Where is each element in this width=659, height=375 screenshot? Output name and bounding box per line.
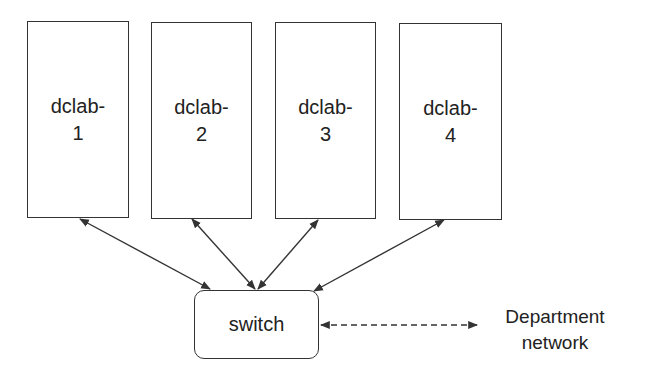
- link-dclab-1-switch: [80, 219, 210, 289]
- host-label-line2: 3: [298, 121, 352, 148]
- host-label-line2: 1: [51, 120, 105, 147]
- host-label-line1: dclab-: [298, 94, 352, 121]
- host-dclab-3: dclab-3: [275, 22, 376, 219]
- link-dclab-2-switch: [192, 219, 255, 289]
- host-label-line2: 2: [174, 121, 228, 148]
- host-label-line2: 4: [423, 122, 477, 149]
- host-label-line1: dclab-: [51, 93, 105, 120]
- department-label-line1: Department: [495, 304, 615, 330]
- link-dclab-4-switch: [314, 220, 444, 291]
- host-dclab-1: dclab-1: [27, 21, 129, 218]
- department-network-label: Department network: [495, 304, 615, 356]
- switch-label: switch: [229, 311, 285, 338]
- host-label-line1: dclab-: [423, 95, 477, 122]
- link-dclab-3-switch: [258, 220, 318, 289]
- host-dclab-2: dclab-2: [151, 22, 252, 219]
- host-label-line1: dclab-: [174, 94, 228, 121]
- host-dclab-4: dclab-4: [399, 23, 502, 220]
- switch-node: switch: [194, 290, 319, 359]
- department-label-line2: network: [495, 330, 615, 356]
